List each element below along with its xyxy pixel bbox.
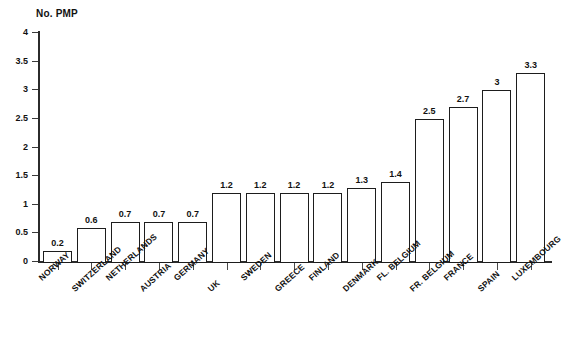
- y-axis-tick-mark: [32, 61, 38, 62]
- y-axis-tick-mark: [32, 232, 38, 233]
- y-axis-title: No. PMP: [36, 8, 78, 19]
- bar: [516, 73, 545, 263]
- y-axis-line: [38, 31, 40, 263]
- y-axis-tick-mark: [32, 89, 38, 90]
- bar-value-label: 2.5: [409, 106, 449, 116]
- bar-value-label: 3.3: [511, 60, 551, 70]
- y-axis-tick-mark: [32, 204, 38, 205]
- y-axis-tick-label: 1.5: [15, 169, 28, 181]
- bar: [347, 188, 376, 263]
- y-axis-tick-label: 2: [23, 141, 28, 153]
- y-axis-tick-mark: [32, 175, 38, 176]
- bar-value-label: 0.7: [173, 209, 213, 219]
- bar-value-label: 2.7: [443, 94, 483, 104]
- y-axis-tick-label: 3: [23, 83, 28, 95]
- y-axis-tick-mark: [32, 261, 38, 262]
- bar: [449, 107, 478, 263]
- x-axis-category-label: GREECE: [273, 262, 307, 294]
- y-axis-tick-label: 3.5: [15, 55, 28, 67]
- x-axis-category-label: SPAIN: [476, 269, 502, 294]
- y-axis-tick-label: 0.5: [15, 226, 28, 238]
- bar-value-label: 3: [477, 77, 517, 87]
- y-axis-tick-label: 1: [23, 198, 28, 210]
- x-axis-category-label: AUSTRIA: [138, 261, 173, 294]
- y-axis-tick-mark: [32, 147, 38, 148]
- x-axis-tick-mark: [497, 263, 498, 270]
- y-axis-tick-label: 4: [23, 26, 28, 38]
- y-axis-tick-mark: [32, 118, 38, 119]
- y-axis-tick-label: 0: [23, 255, 28, 267]
- bar-value-label: 1.4: [376, 169, 416, 179]
- bar-value-label: 0.2: [38, 238, 78, 248]
- bar-chart: No. PMP 00.511.522.533.54 0.20.60.70.70.…: [0, 0, 564, 341]
- x-axis-category-label: UK: [205, 278, 221, 294]
- bar: [246, 193, 275, 263]
- bar: [280, 193, 309, 263]
- bar: [482, 90, 511, 263]
- x-axis-tick-mark: [227, 263, 228, 270]
- y-axis-tick-mark: [32, 32, 38, 33]
- bar: [212, 193, 241, 263]
- y-axis-tick-label: 2.5: [15, 112, 28, 124]
